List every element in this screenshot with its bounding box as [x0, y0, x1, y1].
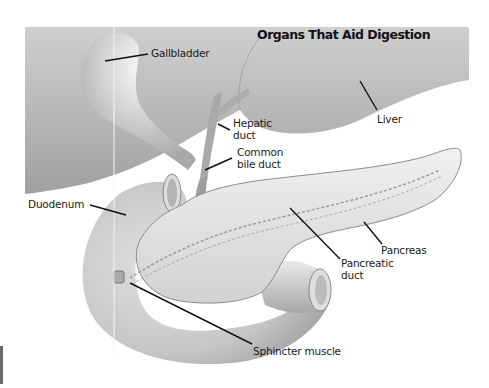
label-duodenum: Duodenum: [28, 198, 84, 210]
sphincter-muscle-shape: [114, 271, 124, 283]
label-sphincter-muscle: Sphincter muscle: [253, 345, 341, 357]
label-common-bile-duct-line2: bile duct: [237, 158, 281, 170]
edge-artifact-bar: [0, 346, 3, 384]
label-hepatic-duct-line2: duct: [233, 129, 255, 141]
diagram-title: Organs That Aid Digestion: [257, 27, 430, 42]
label-hepatic-duct-line1: Hepatic: [233, 117, 272, 129]
label-pancreas: Pancreas: [381, 244, 427, 256]
label-pancreatic-duct-line1: Pancreatic: [341, 257, 394, 269]
label-pancreatic-duct-line2: duct: [341, 269, 363, 281]
label-liver: Liver: [377, 113, 402, 125]
leader-hepatic-duct: [218, 124, 230, 130]
label-gallbladder: Gallbladder: [151, 47, 209, 59]
leader-pancreas: [364, 222, 382, 244]
label-common-bile-duct-line1: Common: [237, 146, 283, 158]
digestive-organs-illustration: [0, 0, 489, 388]
